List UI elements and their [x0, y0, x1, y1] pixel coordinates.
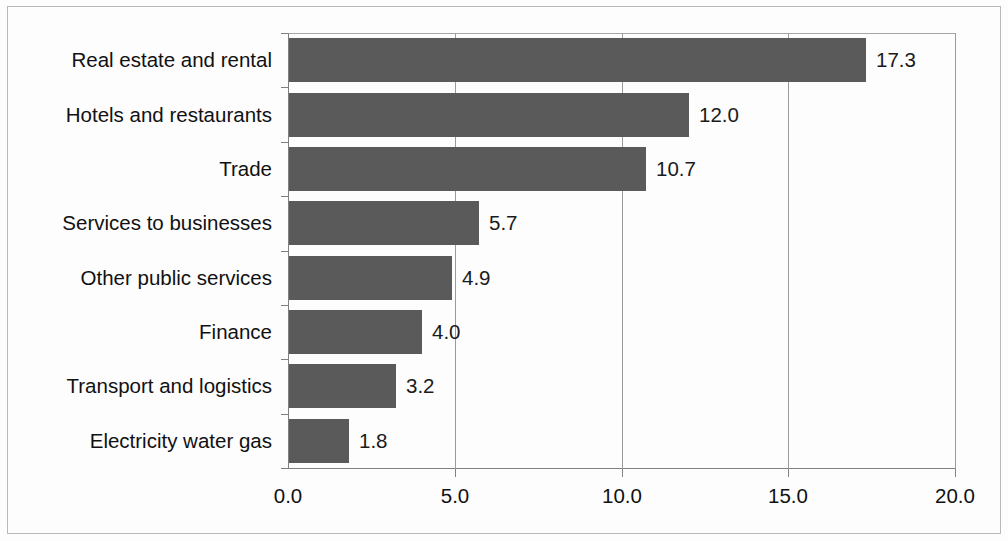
- bar[interactable]: [289, 201, 479, 245]
- y-tick-0: [281, 33, 288, 34]
- x-tick-5.0: [455, 469, 456, 477]
- category-label-row: Real estate and rental: [0, 50, 272, 74]
- x-tick-20.0: [955, 469, 956, 477]
- x-tick-label: 5.0: [441, 486, 470, 507]
- bar-value-label: 4.0: [432, 322, 461, 343]
- y-tick-6: [281, 359, 288, 360]
- bar-value-label: 4.9: [462, 268, 491, 289]
- bar[interactable]: [289, 93, 689, 137]
- category-label-row: Trade: [0, 159, 272, 183]
- category-label-row: Hotels and restaurants: [0, 105, 272, 129]
- y-tick-1: [281, 87, 288, 88]
- category-label: Real estate and rental: [0, 50, 272, 71]
- x-tick-label: 0.0: [274, 486, 303, 507]
- bar-value-label: 12.0: [699, 105, 739, 126]
- x-tick-10.0: [622, 469, 623, 477]
- y-tick-8: [281, 468, 288, 469]
- chart-canvas: 17.312.010.75.74.94.03.21.8 Real estate …: [0, 0, 1008, 541]
- bar[interactable]: [289, 310, 422, 354]
- bar[interactable]: [289, 419, 349, 463]
- category-label-row: Transport and logistics: [0, 376, 272, 400]
- category-label: Electricity water gas: [0, 431, 272, 452]
- category-label: Finance: [0, 322, 272, 343]
- category-label: Hotels and restaurants: [0, 105, 272, 126]
- x-tick-label: 10.0: [602, 486, 642, 507]
- x-tick-label: 20.0: [935, 486, 975, 507]
- gridline-15.0: [788, 33, 789, 469]
- category-label: Services to businesses: [0, 213, 272, 234]
- category-label-row: Services to businesses: [0, 213, 272, 237]
- gridline-20.0: [955, 33, 956, 469]
- bar-value-label: 1.8: [359, 431, 388, 452]
- category-label-row: Electricity water gas: [0, 431, 272, 455]
- bar[interactable]: [289, 147, 646, 191]
- bar-value-label: 3.2: [406, 376, 435, 397]
- y-tick-2: [281, 142, 288, 143]
- x-tick-15.0: [788, 469, 789, 477]
- y-tick-3: [281, 196, 288, 197]
- bar-value-label: 5.7: [489, 213, 518, 234]
- y-tick-4: [281, 251, 288, 252]
- category-label: Other public services: [0, 268, 272, 289]
- bar-value-label: 17.3: [876, 50, 916, 71]
- category-label-row: Other public services: [0, 268, 272, 292]
- category-label: Trade: [0, 159, 272, 180]
- bar[interactable]: [289, 364, 396, 408]
- x-tick-label: 15.0: [768, 486, 808, 507]
- y-tick-5: [281, 305, 288, 306]
- category-label: Transport and logistics: [0, 376, 272, 397]
- bar[interactable]: [289, 38, 866, 82]
- bar-value-label: 10.7: [656, 159, 696, 180]
- bar[interactable]: [289, 256, 452, 300]
- y-tick-7: [281, 414, 288, 415]
- category-label-row: Finance: [0, 322, 272, 346]
